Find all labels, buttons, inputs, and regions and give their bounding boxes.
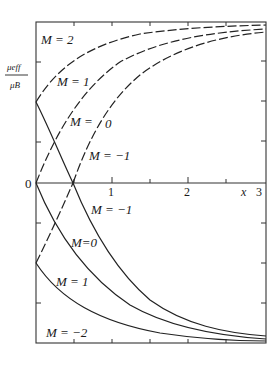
curve-lower-m0 xyxy=(36,183,266,339)
label-lower-m0: M=0 xyxy=(70,235,98,250)
label-lower-m-neg2: M = −2 xyxy=(45,325,88,340)
label-upper-m0-prefix: M = xyxy=(69,114,93,129)
x-tick-1: 1 xyxy=(108,185,114,199)
curve-upper-m1 xyxy=(36,29,266,183)
x-tick-2: 2 xyxy=(184,185,190,199)
label-upper-m1: M = 1 xyxy=(56,74,90,89)
label-lower-m-neg1: M = −1 xyxy=(90,202,132,217)
x-tick-3: 3 xyxy=(256,185,262,199)
y-label-numerator: μeff xyxy=(6,62,22,72)
y-axis-ticks xyxy=(36,61,266,303)
x-axis-label: x xyxy=(240,185,247,199)
label-upper-m-neg1: M = −1 xyxy=(88,148,130,163)
label-upper-m2: M = 2 xyxy=(40,32,74,47)
label-upper-m0-value: 0 xyxy=(105,116,112,131)
magnetic-moment-diagram: μeff μB 0 1 2 x 3 M = 2 M = 1 M = 0 M = … xyxy=(0,0,278,374)
label-lower-m1: M = 1 xyxy=(55,274,89,289)
origin-label: 0 xyxy=(25,176,32,191)
curve-m-neg1 xyxy=(36,102,266,336)
y-label-denominator: μB xyxy=(9,80,21,90)
